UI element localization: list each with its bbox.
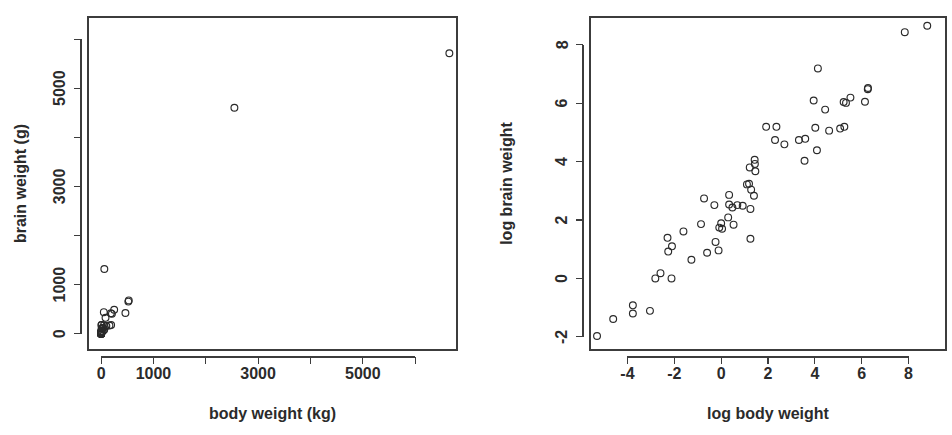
data-point xyxy=(747,206,754,213)
data-point xyxy=(814,65,821,72)
data-point xyxy=(725,214,732,221)
data-point xyxy=(647,307,654,314)
y-axis-tick-label: 2 xyxy=(554,215,571,224)
data-point xyxy=(847,94,854,101)
data-point xyxy=(924,22,931,29)
figure-container: 01000300050000100030005000body weight (k… xyxy=(0,0,952,435)
data-point xyxy=(747,235,754,242)
data-point xyxy=(801,157,808,164)
y-axis-tick-label: 6 xyxy=(554,99,571,108)
y-axis-title: log brain weight xyxy=(498,122,515,245)
data-point xyxy=(101,266,108,273)
panel-log-scatter: -4-202468-202468log body weightlog brain… xyxy=(480,0,952,435)
x-axis-tick-label: 5000 xyxy=(345,365,381,382)
data-point xyxy=(730,221,737,228)
data-point xyxy=(773,123,780,130)
plot-frame xyxy=(88,17,457,350)
data-point xyxy=(781,141,788,148)
x-axis-tick-label: 0 xyxy=(717,365,726,382)
data-point xyxy=(665,248,672,255)
x-axis-tick-label: 3000 xyxy=(240,365,276,382)
data-point xyxy=(652,275,659,282)
data-point xyxy=(763,123,770,130)
y-axis-tick-label: -2 xyxy=(554,330,571,344)
x-axis-tick-label: 2 xyxy=(764,365,773,382)
data-point xyxy=(837,125,844,132)
data-point-group xyxy=(594,22,931,339)
data-point xyxy=(810,97,817,104)
data-point xyxy=(701,195,708,202)
data-point xyxy=(901,29,908,36)
data-point xyxy=(680,228,687,235)
y-axis-tick-label: 8 xyxy=(554,40,571,49)
data-point xyxy=(826,127,833,134)
x-axis-tick-label: 8 xyxy=(904,365,913,382)
data-point xyxy=(841,123,848,130)
data-point xyxy=(796,137,803,144)
data-point xyxy=(610,316,617,323)
data-point xyxy=(629,310,636,317)
data-point xyxy=(446,50,453,57)
x-axis-tick-label: 1000 xyxy=(136,365,172,382)
x-axis-tick-label: -4 xyxy=(620,365,634,382)
data-point xyxy=(704,249,711,256)
y-axis-tick-label: 0 xyxy=(52,329,69,338)
x-axis-title: body weight (kg) xyxy=(209,405,336,422)
y-axis-tick-label: 0 xyxy=(554,274,571,283)
data-point xyxy=(122,310,129,317)
data-point xyxy=(726,191,733,198)
data-point xyxy=(688,256,695,263)
x-axis-tick-label: 4 xyxy=(810,365,819,382)
y-axis-tick-label: 1000 xyxy=(52,267,69,303)
x-axis-tick-label: 6 xyxy=(857,365,866,382)
data-point xyxy=(657,270,664,277)
data-point xyxy=(814,147,821,154)
x-axis-title: log body weight xyxy=(707,405,829,422)
data-point xyxy=(752,168,759,175)
panel-raw-scatter: 01000300050000100030005000body weight (k… xyxy=(0,0,480,435)
data-point xyxy=(664,234,671,241)
x-axis-tick-label: 0 xyxy=(97,365,106,382)
data-point xyxy=(594,333,601,340)
y-axis-tick-label: 5000 xyxy=(52,70,69,106)
plot-frame xyxy=(590,17,946,350)
data-point-group xyxy=(98,50,453,337)
data-point xyxy=(711,202,718,209)
y-axis-tick-label: 3000 xyxy=(52,169,69,205)
data-point xyxy=(668,275,675,282)
data-point xyxy=(698,221,705,228)
data-point xyxy=(231,104,238,111)
data-point xyxy=(812,124,819,131)
x-axis-tick-label: -2 xyxy=(667,365,681,382)
data-point xyxy=(715,247,722,254)
log-scatter-plot: -4-202468-202468log body weightlog brain… xyxy=(480,0,952,435)
data-point xyxy=(629,302,636,309)
data-point xyxy=(862,98,869,105)
y-axis-tick-label: 4 xyxy=(554,157,571,166)
data-point xyxy=(822,106,829,113)
data-point xyxy=(772,137,779,144)
data-point xyxy=(751,161,758,168)
data-point xyxy=(802,135,809,142)
data-point xyxy=(712,239,719,246)
y-axis-title: brain weight (g) xyxy=(12,124,29,243)
raw-scatter-plot: 01000300050000100030005000body weight (k… xyxy=(0,0,480,435)
